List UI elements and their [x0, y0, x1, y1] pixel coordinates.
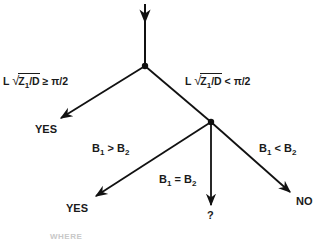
b-left: B	[259, 142, 267, 154]
condition-b-greater: B1 > B2	[92, 143, 129, 157]
b-right: B	[284, 142, 292, 154]
b-left-sub: 1	[267, 148, 271, 157]
b-right-sub: 2	[192, 179, 196, 188]
cond-prefix: L	[185, 75, 191, 87]
condition-b-less: B1 < B2	[259, 143, 296, 157]
sqrt-expression: √Z1/D	[194, 74, 222, 90]
decision-tree-diagram	[0, 0, 319, 239]
condition-left-top: L √Z1/D ≥ π/2	[3, 74, 68, 90]
cond-rhs: π/2	[234, 75, 251, 87]
condition-b-equal: B1 = B2	[159, 174, 196, 188]
radicand-tail: /D	[211, 75, 222, 87]
b-left-sub: 1	[100, 148, 104, 157]
b-right-sub: 2	[292, 148, 296, 157]
b-right: B	[117, 142, 125, 154]
b-operator: <	[274, 142, 280, 154]
b-right: B	[184, 173, 192, 185]
cond-operator: ≥	[43, 75, 49, 87]
branch-b-less-arrow	[211, 122, 290, 192]
footer-partial-text: WHERE	[50, 233, 82, 239]
outcome-bottom-middle: ?	[207, 210, 214, 221]
cond-operator: <	[225, 75, 231, 87]
radicand-tail: /D	[29, 75, 40, 87]
b-left: B	[92, 142, 100, 154]
outcome-bottom-left: YES	[66, 203, 88, 214]
outcome-bottom-right: NO	[296, 196, 313, 207]
b-left-sub: 1	[167, 179, 171, 188]
branch-left-arrow	[61, 66, 145, 118]
b-operator: =	[174, 173, 180, 185]
cond-rhs: π/2	[51, 75, 68, 87]
sqrt-expression: √Z1/D	[12, 74, 40, 90]
b-left: B	[159, 173, 167, 185]
b-operator: >	[107, 142, 113, 154]
cond-prefix: L	[3, 75, 9, 87]
b-right-sub: 2	[125, 148, 129, 157]
condition-right-top: L √Z1/D < π/2	[185, 74, 250, 90]
outcome-top-left: YES	[35, 124, 57, 135]
